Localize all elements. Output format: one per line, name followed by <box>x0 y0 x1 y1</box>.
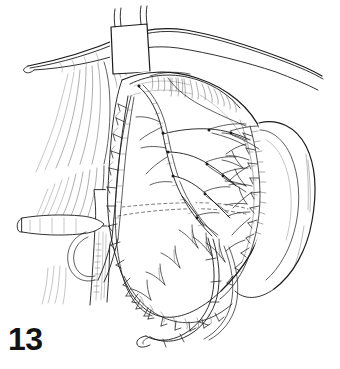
surgical-illustration <box>0 0 340 369</box>
figure-container: 13 <box>0 0 340 369</box>
cross-vessel <box>17 215 104 235</box>
figure-number-label: 13 <box>8 322 43 356</box>
